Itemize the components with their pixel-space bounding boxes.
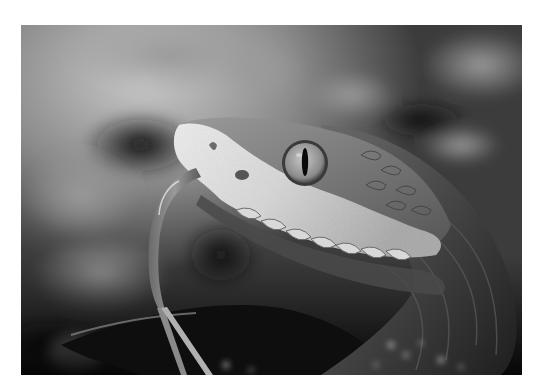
snake-eye — [282, 140, 328, 186]
snake-photo: Grayscale close-up photograph of a pit v… — [21, 25, 522, 375]
eye-pupil — [302, 148, 308, 176]
snake-photo-svg — [21, 25, 522, 375]
heat-pit — [235, 170, 249, 180]
page: Grayscale close-up photograph of a pit v… — [0, 0, 540, 392]
